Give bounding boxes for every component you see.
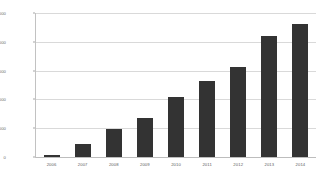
bar-2012 [230,67,246,157]
bar-2010 [168,97,184,157]
bar-2008 [106,129,122,157]
x-tick-label: 2007 [78,162,88,167]
y-tick-label: 3000 [0,68,6,73]
plot-area [36,13,316,157]
x-tick-label: 2010 [171,162,181,167]
bar-2014 [292,24,308,157]
x-tick-label: 2006 [47,162,57,167]
y-tick-mark-5000 [33,13,35,14]
x-tick-label: 2009 [140,162,150,167]
bar-2011 [199,81,215,157]
gridline-0 [36,157,316,158]
bar-2007 [75,144,91,157]
x-tick-label: 2014 [296,162,306,167]
x-tick-label: 2012 [233,162,243,167]
y-tick-label: 0 [0,155,6,160]
y-tick-label: 1000 [0,126,6,131]
y-tick-mark-3000 [33,70,35,71]
y-tick-mark-4000 [33,41,35,42]
x-tick-label: 2011 [202,162,211,167]
y-tick-mark-1000 [33,128,35,129]
y-tick-label: 2000 [0,97,6,102]
bar-chart: 010002000300040005000 200620072008200920… [0,0,324,183]
y-tick-label: 4000 [0,39,6,44]
y-tick-mark-0 [33,157,35,158]
x-tick-label: 2013 [264,162,274,167]
bar-2013 [261,36,277,157]
bar-2006 [44,155,60,157]
bar-2009 [137,118,153,157]
y-tick-label: 5000 [0,11,6,16]
x-tick-label: 2008 [109,162,119,167]
y-tick-mark-2000 [33,99,35,100]
